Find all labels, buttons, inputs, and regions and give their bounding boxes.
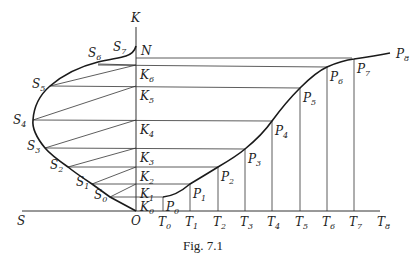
t-label: T2 (213, 215, 226, 231)
k-label: K2 (139, 170, 154, 186)
t-label: T3 (240, 215, 253, 231)
k-label: K1 (139, 187, 154, 203)
k-label: K6 (139, 68, 154, 84)
t-label: T1 (185, 215, 198, 231)
k-label: K4 (139, 123, 154, 139)
k-axis-label: K (130, 11, 141, 25)
p-label: P6 (329, 70, 343, 86)
p-label: P4 (274, 124, 288, 140)
diagonal-line (50, 65, 136, 86)
s-label: S7 (113, 40, 127, 56)
origin-label: O (131, 214, 141, 228)
diagonal-line (68, 148, 136, 167)
diagram-lines: K0K1K2K3K4K5K6S0S1S2S3S4S5S6S7P0P1P2P3P4… (13, 40, 409, 231)
diagonal-line (33, 86, 136, 120)
k-label: K3 (139, 151, 154, 167)
figure-7-1: K0K1K2K3K4K5K6S0S1S2S3S4S5S6S7P0P1P2P3P4… (0, 0, 414, 265)
t-label: T6 (322, 215, 335, 231)
t-label: T8 (377, 215, 390, 231)
k-label: K5 (139, 89, 154, 105)
s-label: S4 (13, 113, 26, 129)
k-level-line (50, 86, 300, 88)
s-label: S5 (32, 77, 45, 93)
p-label: P3 (247, 152, 261, 168)
n-label: N (140, 44, 152, 58)
t-label: T5 (295, 215, 308, 231)
p-label: P7 (356, 62, 371, 78)
p-label: P0 (165, 200, 179, 216)
k-level-line (45, 148, 245, 149)
p-label: P5 (302, 91, 316, 107)
t-label: T0 (158, 215, 171, 231)
figure-caption: Fig. 7.1 (183, 238, 223, 253)
t-label: T4 (267, 215, 280, 231)
p-label: P8 (395, 47, 409, 63)
s-label: S3 (27, 139, 40, 155)
s-label: S2 (50, 158, 63, 174)
diagonal-line (92, 167, 136, 184)
p-label: P2 (220, 170, 234, 186)
p-label: P1 (192, 187, 206, 203)
diagonal-line (45, 120, 136, 148)
diagonal-line (110, 184, 136, 197)
k-level-line (33, 120, 272, 121)
s-label: S6 (88, 46, 101, 62)
s-axis-label: S (17, 214, 25, 228)
t-label: T7 (349, 215, 363, 231)
